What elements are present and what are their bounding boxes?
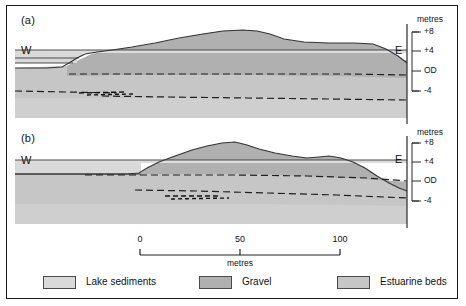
legend: Lake sediments Gravel Estuarine beds <box>7 274 455 296</box>
panel-a-west-label: W <box>21 44 31 56</box>
legend-swatch-gravel <box>199 276 232 289</box>
figure-frame: (a) W E <box>6 5 458 299</box>
scalebar-tick-100: 100 <box>332 234 347 244</box>
panel-a-tick-label-od: OD <box>424 65 437 75</box>
scalebar: 0 50 100 metres <box>7 234 455 270</box>
scalebar-tick-0: 0 <box>137 234 142 244</box>
legend-swatch-lake-sediments <box>43 276 76 289</box>
panel-b-label: (b) <box>21 132 35 144</box>
panel-b-lens-dash-2 <box>171 198 229 199</box>
panel-b-west-label: W <box>21 154 31 166</box>
panel-a-cross-section <box>7 6 455 128</box>
scalebar-tick-50: 50 <box>235 234 245 244</box>
legend-label-estuarine-beds: Estuarine beds <box>380 276 447 287</box>
panel-b-cross-section <box>7 128 455 238</box>
legend-label-gravel: Gravel <box>242 276 271 287</box>
panel-b-tick-label-od: OD <box>424 175 437 185</box>
panel-b-tick-label-plus8: +8 <box>424 137 434 147</box>
panel-a: (a) W E <box>7 6 455 128</box>
panel-a-label: (a) <box>21 14 35 26</box>
figure-root: (a) W E <box>0 0 466 306</box>
panel-a-gravel-mass <box>67 30 407 77</box>
panel-a-tick-label-plus8: +8 <box>424 26 434 36</box>
panel-b-tick-label-minus4: -4 <box>424 195 432 205</box>
legend-swatch-estuarine-beds <box>337 276 370 289</box>
panel-a-east-label: E <box>395 44 402 56</box>
panel-a-axis-title: metres <box>417 14 443 24</box>
scalebar-caption: metres <box>227 258 253 268</box>
panel-a-tick-label-minus4: -4 <box>424 85 432 95</box>
panel-a-tick-label-plus4: +4 <box>424 45 434 55</box>
panel-b-tick-label-plus4: +4 <box>424 156 434 166</box>
panel-b-estuarine-upper <box>15 174 407 206</box>
panel-b: (b) W E <box>7 128 455 238</box>
panel-b-axis-title: metres <box>417 127 443 137</box>
legend-label-lake-sediments: Lake sediments <box>86 276 156 287</box>
panel-b-east-label: E <box>395 153 402 165</box>
